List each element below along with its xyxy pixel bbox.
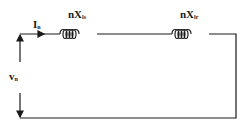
current-label: In bbox=[33, 19, 41, 30]
wire-right bbox=[20, 34, 236, 118]
inductor-stator-subscript: ls bbox=[82, 14, 86, 20]
voltage-subscript: n bbox=[15, 76, 18, 82]
inductor-rotor-subscript: lr bbox=[194, 14, 198, 20]
inductor-stator-label: nXls bbox=[68, 9, 86, 20]
voltage-arrow-up-icon bbox=[17, 35, 23, 41]
inductor-stator-symbol: nX bbox=[68, 8, 82, 20]
voltage-arrow-down-icon bbox=[17, 111, 23, 117]
inductor-rotor-coil bbox=[172, 30, 191, 39]
inductor-rotor-symbol: nX bbox=[180, 8, 194, 20]
inductor-stator-coil bbox=[60, 30, 79, 39]
inductor-rotor-label: nXlr bbox=[180, 9, 198, 20]
voltage-label: vn bbox=[9, 71, 18, 82]
current-arrow-icon bbox=[38, 31, 44, 37]
current-subscript: n bbox=[37, 24, 40, 30]
